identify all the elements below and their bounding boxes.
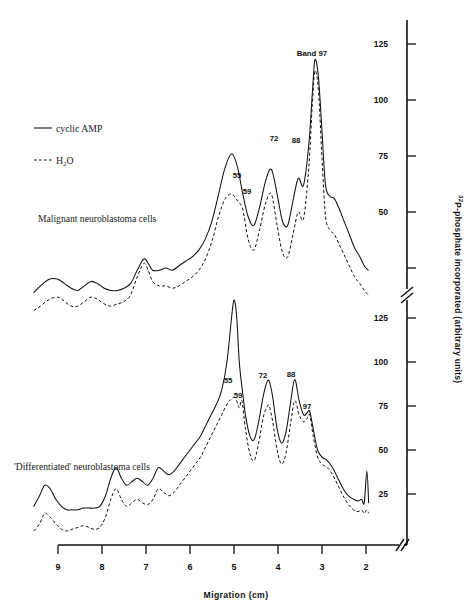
- y-axis-title: 32P-phosphate incorporated (arbitrary un…: [453, 195, 464, 383]
- panel-differentiated: [34, 300, 369, 531]
- x-tick-6: 6: [187, 562, 192, 572]
- peak-label-malignant-72: 72: [270, 134, 279, 143]
- legend-label-cyclic-amp: cyclic AMP: [56, 123, 103, 134]
- y-tick-bottom-50: 50: [379, 445, 389, 455]
- x-tick-2: 2: [363, 562, 368, 572]
- y-tick-top-75: 75: [379, 151, 389, 161]
- x-axis-title: Migration (cm): [204, 590, 269, 600]
- panel-title-malignant: Malignant neuroblastoma cells: [38, 213, 157, 224]
- y-ticks-top: [407, 44, 416, 268]
- peak-label-differentiated-72: 72: [259, 371, 268, 380]
- curve-cyclic-amp-differentiated: [34, 300, 369, 510]
- peak-label-differentiated-59: 59: [234, 391, 243, 400]
- x-tick-5: 5: [231, 562, 236, 572]
- y-axis-title-main: P-phosphate incorporated (arbitrary unit…: [453, 202, 463, 383]
- y-tick-bottom-75: 75: [379, 401, 389, 411]
- svg-text:32P-phosphate incorporated (ar: 32P-phosphate incorporated (arbitrary un…: [453, 195, 464, 383]
- y-tick-top-50: 50: [379, 207, 389, 217]
- panel-title-differentiated: 'Differentiated' neuroblastoma cells: [14, 461, 150, 472]
- peak-label-differentiated-55: 55: [224, 376, 233, 385]
- legend-label-h2o-h: H: [56, 155, 63, 166]
- legend-label-h2o-o: O: [67, 155, 74, 166]
- densitometry-figure: 125 100 75 50 125 100 75 50 25: [0, 0, 472, 611]
- curve-h2o-malignant: [34, 71, 368, 311]
- y-tick-top-125: 125: [374, 39, 388, 49]
- legend-label-h2o: H2O: [56, 155, 74, 168]
- y-axis: [401, 20, 413, 545]
- peak-label-differentiated-97: 97: [303, 402, 312, 411]
- x-tick-9: 9: [55, 562, 60, 572]
- x-tick-7: 7: [143, 562, 148, 572]
- figure-container: 125 100 75 50 125 100 75 50 25: [0, 0, 472, 611]
- panel-malignant: [34, 59, 368, 310]
- x-ticks: [58, 545, 366, 554]
- x-tick-8: 8: [99, 562, 104, 572]
- peak-label-malignant-88: 88: [292, 136, 301, 145]
- legend-item-cyclic-amp: cyclic AMP: [34, 123, 103, 134]
- y-tick-bottom-125: 125: [374, 313, 388, 323]
- legend-item-h2o: H2O: [34, 155, 74, 168]
- y-tick-top-100: 100: [374, 95, 388, 105]
- peak-label-malignant-59: 59: [243, 187, 252, 196]
- y-ticks-bottom: [407, 318, 416, 494]
- legend: cyclic AMP H2O: [34, 123, 103, 168]
- peak-label-malignant-55: 55: [233, 171, 242, 180]
- x-tick-4: 4: [275, 562, 280, 572]
- curve-cyclic-amp-malignant: [34, 59, 368, 292]
- y-tick-bottom-100: 100: [374, 357, 388, 367]
- peak-label-differentiated-88: 88: [287, 370, 296, 379]
- peak-label-malignant-band-97: Band 97: [297, 49, 327, 58]
- x-tick-3: 3: [319, 562, 324, 572]
- y-tick-bottom-25: 25: [379, 489, 389, 499]
